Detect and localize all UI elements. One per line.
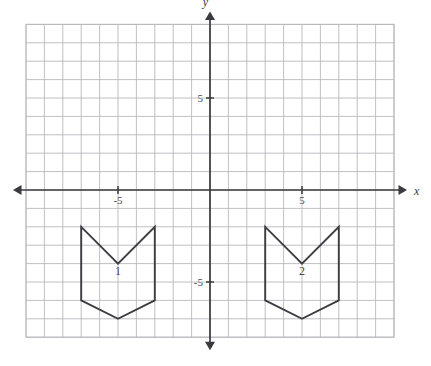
figure-label-2: 2 [299, 264, 305, 278]
x-axis-tick-label: 5 [299, 194, 305, 206]
x-axis-label: x [413, 184, 420, 198]
x-axis-tick-label: -5 [113, 194, 123, 206]
y-axis-arrow-up [205, 11, 215, 20]
y-axis-tick-label: 5 [198, 92, 204, 104]
x-axis-arrow-left [13, 185, 22, 195]
axes-layer [13, 11, 407, 350]
coordinate-plane-figure: -555-5xy12 [0, 0, 431, 366]
plot-canvas: -555-5xy12 [0, 0, 431, 366]
y-axis-arrow-down [205, 342, 215, 351]
y-axis-tick-label: -5 [194, 276, 204, 288]
y-axis-label: y [202, 0, 209, 9]
figure-label-1: 1 [115, 264, 121, 278]
x-axis-arrow-right [399, 185, 408, 195]
